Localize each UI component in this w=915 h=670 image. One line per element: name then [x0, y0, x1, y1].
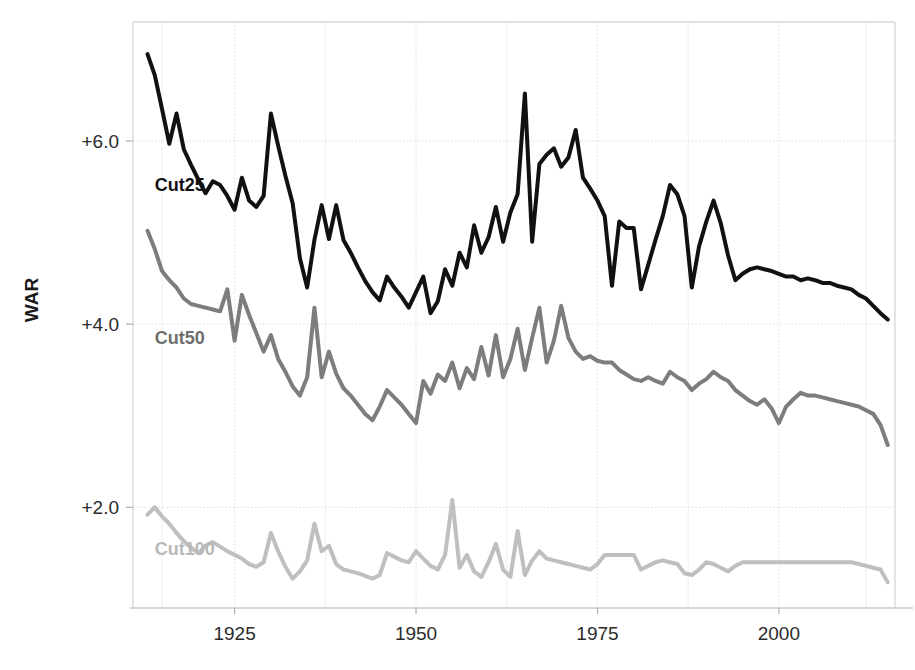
x-tick-label: 1950	[395, 623, 437, 644]
series-label-cut50: Cut50	[155, 328, 205, 348]
y-axis-title-text: WAR	[21, 278, 42, 323]
y-axis-title: WAR	[21, 278, 42, 323]
y-tick-label: +6.0	[81, 131, 119, 152]
y-tick-label: +4.0	[81, 314, 119, 335]
chart-background	[0, 0, 915, 670]
y-tick-label: +2.0	[81, 497, 119, 518]
x-tick-label: 2000	[758, 623, 800, 644]
x-tick-label: 1925	[213, 623, 255, 644]
x-tick-label: 1975	[576, 623, 618, 644]
chart-figure: 1925195019752000 +2.0+4.0+6.0 Cut25Cut50…	[0, 0, 915, 670]
series-label-cut100: Cut100	[155, 539, 215, 559]
war-line-chart: 1925195019752000 +2.0+4.0+6.0 Cut25Cut50…	[0, 0, 915, 670]
series-label-cut25: Cut25	[155, 175, 205, 195]
